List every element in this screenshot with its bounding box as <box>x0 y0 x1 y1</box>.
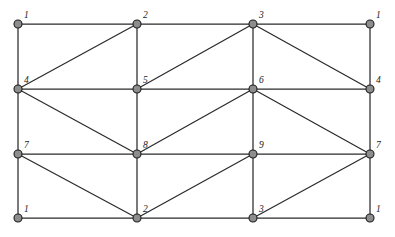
node-label: 9 <box>259 141 264 151</box>
graph-edge <box>18 89 137 154</box>
node-label: 7 <box>24 141 29 151</box>
nodes-layer <box>14 20 374 222</box>
graph-canvas <box>0 0 395 237</box>
graph-edge <box>137 24 253 89</box>
edges-layer <box>18 24 370 218</box>
graph-edge <box>18 24 137 89</box>
graph-node <box>14 20 22 28</box>
graph-edge <box>253 89 370 154</box>
graph-edge <box>253 24 370 89</box>
graph-node <box>14 85 22 93</box>
node-label: 1 <box>24 205 29 215</box>
graph-edge <box>18 154 137 218</box>
graph-node <box>14 214 22 222</box>
graph-node <box>133 20 141 28</box>
graph-node <box>366 20 374 28</box>
graph-edge <box>137 89 253 154</box>
graph-node <box>249 214 257 222</box>
graph-node <box>366 214 374 222</box>
node-label: 3 <box>259 11 264 21</box>
node-label: 1 <box>376 11 381 21</box>
graph-node <box>133 150 141 158</box>
node-label: 4 <box>376 76 381 86</box>
node-label: 7 <box>376 141 381 151</box>
graph-node <box>366 150 374 158</box>
graph-node <box>14 150 22 158</box>
graph-edge <box>137 154 253 218</box>
graph-node <box>249 20 257 28</box>
node-label: 2 <box>143 205 148 215</box>
graph-node <box>133 214 141 222</box>
node-label: 8 <box>143 141 148 151</box>
node-label: 2 <box>143 11 148 21</box>
node-label: 3 <box>259 205 264 215</box>
graph-node <box>133 85 141 93</box>
node-label: 6 <box>259 76 264 86</box>
node-label: 5 <box>143 76 148 86</box>
graph-figure: 1231456478971231 <box>0 0 395 237</box>
graph-node <box>249 150 257 158</box>
graph-node <box>366 85 374 93</box>
graph-edge <box>253 154 370 218</box>
node-label: 1 <box>376 205 381 215</box>
node-label: 1 <box>24 11 29 21</box>
node-label: 4 <box>24 76 29 86</box>
graph-node <box>249 85 257 93</box>
